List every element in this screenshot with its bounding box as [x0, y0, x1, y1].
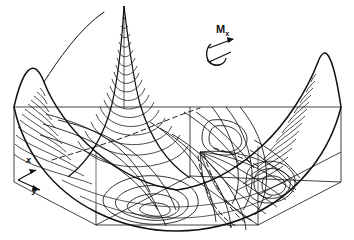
rotation-arrow-group	[203, 36, 253, 80]
silhouette-left-inner	[44, 12, 104, 82]
arrow-up-right-icon	[18, 169, 36, 180]
figure-canvas: x y Mx	[0, 0, 354, 240]
curved-rotation-arrow-icon	[207, 37, 234, 65]
front-basin-contour-inner	[127, 194, 179, 218]
central-peak-contours	[78, 18, 188, 167]
dashed-separatrix-front	[198, 156, 236, 226]
arrow-down-right-icon	[18, 180, 40, 191]
moment-label-base: M	[216, 23, 225, 35]
axis-arrows-group	[12, 158, 72, 218]
